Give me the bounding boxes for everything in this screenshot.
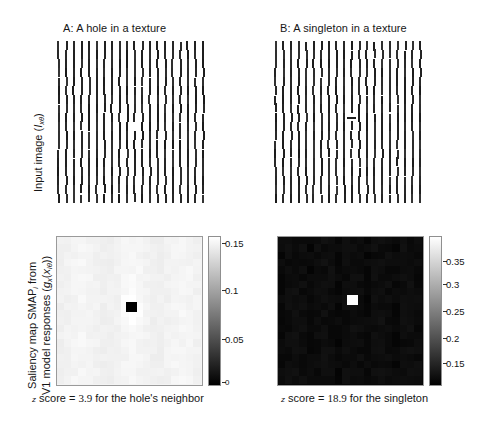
texture-bar [358, 77, 360, 86]
texture-bar [57, 167, 59, 176]
texture-bar [202, 77, 204, 86]
texture-bar [194, 167, 196, 176]
texture-bar [297, 59, 299, 68]
texture-bar [312, 86, 314, 95]
texture-bar [328, 148, 330, 157]
texture-bar [275, 131, 277, 140]
texture-bar [298, 113, 300, 122]
texture-bar [127, 167, 129, 176]
panel-b-saliency-map [277, 236, 424, 386]
panel-b-zscore-caption: z score = 18.9 for the singleton [281, 392, 428, 404]
texture-bar [306, 59, 308, 68]
texture-bar [283, 50, 285, 59]
texture-bar [397, 194, 399, 203]
texture-bar [343, 86, 345, 95]
texture-bar [202, 167, 204, 176]
texture-bar [404, 104, 406, 113]
texture-bar [126, 41, 128, 50]
row2-y-axis-label-line2-symbol-sub: x [45, 278, 54, 282]
panel-a-colorbar-tick-label: 0.15 [225, 237, 244, 248]
texture-bar [187, 68, 189, 77]
texture-bar [149, 194, 151, 203]
texture-bar [149, 113, 151, 122]
texture-bar [180, 167, 182, 176]
texture-bar [180, 59, 182, 68]
texture-bar [389, 114, 391, 123]
texture-bar [381, 41, 383, 50]
texture-anomaly-bar [347, 117, 356, 119]
texture-bar [305, 42, 307, 51]
row1-y-axis-label-close: ) [32, 113, 44, 117]
texture-bar [142, 68, 144, 77]
texture-bar [366, 176, 368, 185]
texture-bar [57, 185, 59, 194]
texture-bar [58, 95, 60, 104]
texture-bar [111, 185, 113, 194]
texture-bar [321, 167, 323, 176]
texture-bar [172, 77, 174, 86]
texture-bar [172, 41, 174, 50]
texture-bar [397, 95, 399, 104]
texture-bar [80, 195, 82, 203]
texture-bar [58, 86, 60, 95]
texture-bar [274, 77, 276, 86]
texture-bar [298, 50, 300, 59]
texture-bar [203, 131, 205, 140]
texture-bar [396, 157, 398, 166]
texture-bar [365, 50, 367, 59]
texture-bar [96, 131, 98, 140]
saliency-target-singleton [347, 295, 358, 305]
texture-bar [298, 185, 300, 194]
texture-bar [187, 95, 189, 104]
texture-bar [80, 184, 82, 193]
row1-y-axis-label: Input image (Ixθ) [32, 113, 46, 192]
texture-bar [186, 41, 188, 50]
texture-bar [96, 113, 98, 122]
texture-bar [187, 149, 189, 158]
texture-bar [111, 68, 113, 77]
texture-bar [172, 140, 174, 149]
texture-bar [66, 104, 68, 113]
texture-bar [148, 95, 150, 104]
texture-bar [404, 59, 406, 68]
texture-bar [80, 95, 82, 104]
texture-bar [373, 104, 375, 113]
texture-bar [133, 113, 135, 122]
texture-bar [283, 176, 285, 185]
texture-bar [187, 167, 189, 176]
texture-bar [328, 194, 330, 203]
texture-bar [172, 185, 174, 194]
texture-bar [103, 77, 105, 86]
texture-bar [389, 149, 391, 158]
texture-bar [343, 140, 345, 149]
texture-bar [397, 131, 399, 140]
texture-bar [274, 158, 276, 167]
texture-bar [366, 68, 368, 77]
texture-bar [96, 140, 98, 149]
texture-bar [359, 158, 361, 167]
row2-y-axis-label-line2-close: )) [40, 256, 52, 263]
texture-bar [103, 158, 105, 167]
texture-bar [65, 59, 67, 68]
texture-bar [290, 176, 292, 185]
row2-y-axis-label-line2-text: V1 model responses ( [40, 288, 52, 395]
texture-bar [396, 68, 398, 77]
texture-bar [89, 77, 91, 86]
texture-bar [374, 77, 376, 86]
texture-bar [187, 176, 189, 185]
texture-bar [96, 194, 98, 203]
texture-bar [187, 86, 189, 95]
texture-bar [290, 104, 292, 113]
texture-bar [405, 41, 407, 50]
texture-bar [149, 140, 151, 149]
texture-bar [81, 59, 83, 68]
texture-bar [290, 95, 292, 104]
texture-bar [81, 131, 83, 140]
texture-bar [195, 68, 197, 77]
row2-y-axis-label-line2: V1 model responses (gx(xiθ)) [40, 256, 54, 395]
panel-b-colorbar-tick-label: 0.2 [446, 332, 459, 343]
texture-bar [73, 50, 75, 59]
texture-bar [187, 131, 189, 140]
texture-bar [172, 131, 174, 140]
texture-bar [306, 194, 308, 203]
